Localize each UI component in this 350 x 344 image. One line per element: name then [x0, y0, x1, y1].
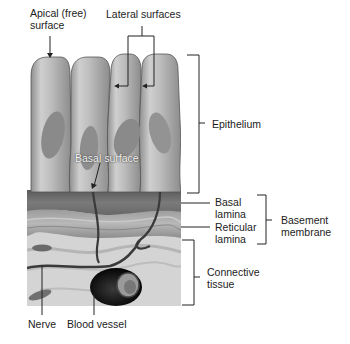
basement-membrane-label: Basement membrane	[281, 214, 331, 238]
epithelium-illustration	[0, 0, 350, 344]
connective-tissue-label: Connective tissue	[207, 266, 260, 290]
apical-surface-label: Apical (free) surface	[30, 7, 87, 31]
epithelial-cells	[31, 54, 181, 192]
blood-vessel-label: Blood vessel	[67, 318, 127, 330]
lateral-surfaces-label: Lateral surfaces	[106, 8, 181, 20]
nerve-label: Nerve	[28, 318, 56, 330]
epithelium-label: Epithelium	[212, 118, 261, 130]
reticular-lamina-label: Reticular lamina	[215, 221, 256, 245]
basal-lamina-label: Basal lamina	[215, 196, 246, 220]
basal-surface-label: Basal surface	[75, 152, 139, 164]
